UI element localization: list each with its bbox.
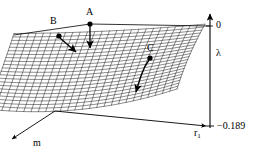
m-axis-label: m [33, 138, 41, 148]
lambda-bottom-tick-label: −0.189 [217, 121, 245, 131]
axis-frame [12, 14, 214, 139]
lambda-top-tick-label: 0 [216, 20, 221, 30]
surface-mesh [0, 24, 205, 112]
mesh-line-u [0, 89, 177, 112]
top-back-edge [90, 24, 210, 26]
m-axis-line [12, 111, 55, 139]
marker-dot-b[interactable] [56, 33, 61, 38]
mesh-line-u [0, 80, 180, 101]
marker-label-c: C [147, 43, 154, 53]
r1-axis-label: r1 [194, 128, 201, 140]
lambda-axis-label: λ [216, 48, 221, 58]
r1-axis-label-subscript: 1 [197, 132, 201, 140]
marker-label-b: B [50, 16, 57, 26]
arrow-b [60, 38, 76, 52]
figure-root: A B C 0 λ −0.189 r1 m [0, 0, 257, 158]
marker-dot-a[interactable] [87, 21, 92, 26]
marker-label-a: A [86, 7, 93, 17]
marker-dot-c[interactable] [147, 55, 152, 60]
mesh-line-v [177, 24, 205, 89]
r1-axis-line [55, 111, 206, 126]
